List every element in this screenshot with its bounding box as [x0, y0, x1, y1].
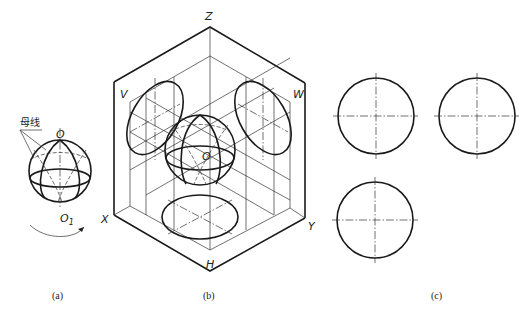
sphere-projection-figure: 母线 O O1 (a)	[0, 0, 531, 320]
w-plane-label: W	[293, 88, 305, 101]
y-axis-label: Y	[308, 220, 316, 233]
h-projection-ellipse	[162, 195, 238, 239]
h-plane-label: H	[206, 258, 214, 271]
generatrix-label: 母线	[20, 116, 40, 128]
center-o-label: O	[202, 150, 211, 163]
figure-c-three-views: (c)	[332, 73, 519, 302]
rotation-arrow	[30, 225, 84, 237]
caption-a: (a)	[52, 290, 63, 302]
caption-b: (b)	[203, 290, 215, 302]
side-view-circle	[434, 73, 519, 159]
caption-c: (c)	[431, 290, 442, 302]
figure-b-isometric: Z X Y V W H O (b)	[100, 10, 316, 302]
figure-a-sphere: 母线 O O1 (a)	[20, 116, 91, 302]
v-plane-label: V	[120, 88, 129, 101]
label-o1: O1	[60, 212, 74, 227]
top-view-circle	[332, 177, 418, 263]
label-o-top: O	[56, 128, 65, 141]
x-axis-label: X	[100, 213, 109, 226]
z-axis-label: Z	[204, 10, 213, 23]
arrow-head-icon	[78, 227, 84, 232]
front-view-circle	[333, 73, 418, 159]
